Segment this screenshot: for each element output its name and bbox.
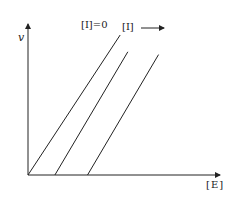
annotation-inhibitor-zero: [I]=0 xyxy=(81,20,108,30)
annotation-inhibitor-increasing: [I] xyxy=(122,22,134,32)
x-axis-label: [E] xyxy=(206,180,224,190)
series-line-2 xyxy=(55,52,128,175)
series-line-1 xyxy=(28,35,120,175)
chart-canvas xyxy=(0,0,239,202)
series-lines xyxy=(28,35,159,175)
series-line-3 xyxy=(88,55,159,175)
y-axis-label: v xyxy=(18,32,24,43)
